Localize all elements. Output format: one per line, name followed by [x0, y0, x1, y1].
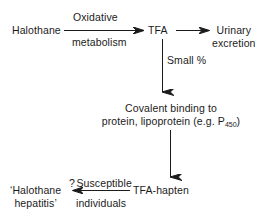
node-covalent-binding: Covalent binding to protein, lipoprotein… — [58, 102, 265, 129]
node-halothane-hepatitis-line2: hepatitis’ — [10, 197, 61, 210]
node-halothane-hepatitis: ‘Halothane hepatitis’ — [10, 184, 61, 209]
node-urinary-excretion-line1: Urinary — [212, 24, 256, 37]
edge-label-metabolism: metabolism — [72, 36, 127, 49]
node-urinary-excretion-line2: excretion — [212, 37, 256, 50]
node-urinary-excretion: Urinary excretion — [212, 24, 256, 49]
node-halothane-hepatitis-line1: ‘Halothane — [10, 184, 61, 197]
edge-label-small-percent: Small % — [167, 54, 206, 67]
susceptible-text: Susceptible — [76, 177, 131, 189]
covalent-binding-close-paren: ) — [237, 115, 241, 127]
covalent-binding-protein-text: protein, lipoprotein (e.g. P — [102, 115, 225, 127]
node-halothane: Halothane — [12, 24, 61, 37]
node-tfa: TFA — [148, 24, 168, 37]
halothane-metabolism-diagram: Halothane Oxidative metabolism TFA Urina… — [0, 0, 265, 219]
edge-label-susceptible: ?Susceptible — [69, 177, 132, 190]
edge-label-individuals: individuals — [76, 197, 126, 210]
cytochrome-p450-subscript: 450 — [225, 121, 237, 128]
node-covalent-binding-line1: Covalent binding to — [58, 102, 265, 115]
susceptible-question-mark: ? — [69, 177, 75, 189]
edge-label-oxidative: Oxidative — [73, 11, 118, 24]
node-tfa-hapten: TFA-hapten — [133, 184, 189, 197]
node-covalent-binding-line2: protein, lipoprotein (e.g. P450) — [58, 115, 265, 130]
